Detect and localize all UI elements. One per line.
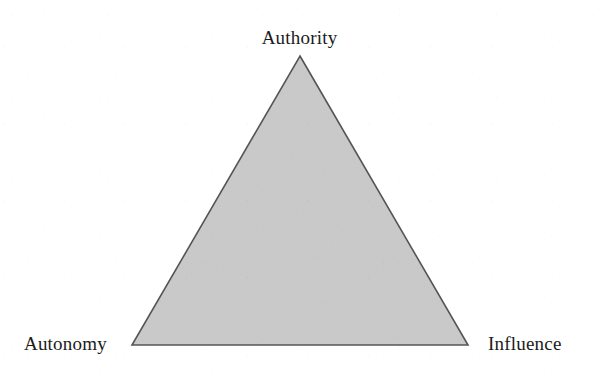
triangle-fill-texture <box>132 56 468 345</box>
vertex-label-influence: Influence <box>488 334 562 353</box>
triangle-diagram <box>0 0 597 376</box>
vertex-label-autonomy: Autonomy <box>24 334 107 353</box>
vertex-label-authority: Authority <box>1 28 597 47</box>
figure-canvas: Authority Autonomy Influence <box>0 0 597 376</box>
